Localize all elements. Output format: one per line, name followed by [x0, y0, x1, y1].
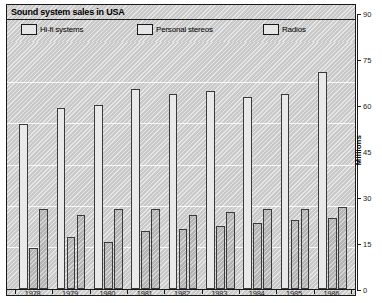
legend-label: Hi-fi systems — [40, 25, 83, 34]
plot-inner — [7, 42, 355, 289]
bar[interactable] — [104, 242, 113, 289]
bar-group — [164, 42, 201, 289]
legend-swatch-icon — [137, 24, 153, 35]
bar[interactable] — [216, 226, 225, 289]
chart-title: Sound system sales in USA — [11, 7, 125, 17]
legend-swatch-icon — [263, 24, 279, 35]
bar-group — [52, 42, 89, 289]
bar[interactable] — [179, 229, 188, 289]
y-axis-label: 45 — [363, 148, 371, 157]
bar-group — [314, 42, 351, 289]
bar[interactable] — [151, 209, 160, 289]
plot-area — [7, 42, 355, 289]
bar[interactable] — [243, 97, 252, 289]
bar[interactable] — [253, 223, 262, 289]
legend-item-personal-stereos[interactable]: Personal stereos — [137, 24, 213, 35]
chart-screenshot: Sound system sales in USA Hi-fi systems … — [0, 0, 382, 303]
y-axis-label: 15 — [363, 240, 371, 249]
bar[interactable] — [291, 220, 300, 289]
bar[interactable] — [39, 209, 48, 289]
y-axis-tick — [357, 14, 361, 15]
x-axis-label: 1980 — [99, 289, 115, 298]
x-axis-label: 1982 — [174, 289, 190, 298]
bar[interactable] — [338, 207, 347, 289]
bar[interactable] — [19, 124, 28, 289]
x-axis-label: 1985 — [286, 289, 302, 298]
x-axis-label: 1984 — [249, 289, 265, 298]
bar[interactable] — [328, 218, 337, 289]
y-axis-label: 90 — [363, 10, 371, 19]
x-axis-label: 1981 — [137, 289, 153, 298]
chart-title-bar: Sound system sales in USA — [7, 5, 355, 20]
bar-series-container — [7, 42, 355, 289]
bar-group — [15, 42, 52, 289]
bar-group — [127, 42, 164, 289]
y-axis-title: Millions — [354, 135, 363, 165]
bar[interactable] — [206, 91, 215, 289]
y-axis-tick — [357, 152, 361, 153]
x-axis-labels: 197819791980198119821983198419851986 — [6, 289, 356, 301]
bar[interactable] — [114, 209, 123, 289]
bar[interactable] — [318, 72, 327, 289]
bar-group — [90, 42, 127, 289]
legend-label: Radios — [282, 25, 306, 34]
legend-item-radios[interactable]: Radios — [263, 24, 306, 35]
bar[interactable] — [189, 215, 198, 289]
bar[interactable] — [169, 94, 178, 289]
bar[interactable] — [141, 231, 150, 289]
bar[interactable] — [263, 209, 272, 289]
y-axis-tick — [357, 106, 361, 107]
y-axis-tick — [357, 290, 361, 291]
y-axis-tick — [357, 198, 361, 199]
y-axis-tick — [357, 244, 361, 245]
bar[interactable] — [29, 248, 38, 289]
bar[interactable] — [131, 89, 140, 289]
bar[interactable] — [94, 105, 103, 289]
bar[interactable] — [67, 237, 76, 289]
bar[interactable] — [226, 212, 235, 289]
legend-item-hifi-systems[interactable]: Hi-fi systems — [21, 24, 83, 35]
chart-legend: Hi-fi systems Personal stereos Radios — [7, 20, 355, 42]
y-axis: Millions 0153045607590 — [357, 4, 382, 296]
y-axis-label: 75 — [363, 56, 371, 65]
y-axis-label: 60 — [363, 102, 371, 111]
bar-group — [202, 42, 239, 289]
y-axis-label: 30 — [363, 194, 371, 203]
chart-frame: Sound system sales in USA Hi-fi systems … — [6, 4, 356, 296]
bar-group — [239, 42, 276, 289]
bar[interactable] — [281, 94, 290, 289]
x-axis-label: 1986 — [323, 289, 339, 298]
legend-label: Personal stereos — [156, 25, 213, 34]
y-axis-tick — [357, 60, 361, 61]
bar[interactable] — [301, 209, 310, 289]
x-axis-label: 1979 — [62, 289, 78, 298]
x-axis-label: 1978 — [25, 289, 41, 298]
x-axis-label: 1983 — [211, 289, 227, 298]
y-axis-label: 0 — [363, 286, 367, 295]
bar-group — [276, 42, 313, 289]
legend-swatch-icon — [21, 24, 37, 35]
bar[interactable] — [77, 215, 86, 289]
bar[interactable] — [57, 108, 66, 289]
